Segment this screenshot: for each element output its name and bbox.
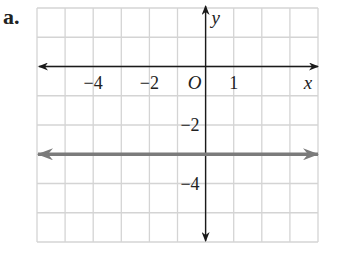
x-tick-label: 1 — [229, 73, 238, 93]
axes — [39, 6, 318, 241]
grid — [37, 8, 318, 242]
coordinate-graph: −4−21−2−4Oxy — [0, 0, 337, 257]
axis-labels: −4−21−2−4Oxy — [84, 7, 313, 194]
x-axis-name: x — [303, 72, 313, 93]
x-tick-label: −4 — [84, 73, 103, 93]
x-tick-label: −2 — [140, 73, 159, 93]
y-tick-label: −2 — [180, 115, 199, 135]
origin-label: O — [188, 72, 202, 93]
y-axis-name: y — [210, 7, 221, 28]
y-tick-label: −4 — [180, 174, 199, 194]
